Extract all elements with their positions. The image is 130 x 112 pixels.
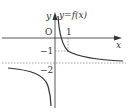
y-axis-label: y (45, 11, 52, 21)
y-tick-minus-2: −2 (40, 65, 53, 75)
x-tick-1: 1 (66, 27, 72, 37)
origin-label: O (45, 27, 52, 37)
x-axis-label: x (116, 40, 121, 50)
y-axis-arrow-icon (53, 12, 58, 20)
function-label: y=f(x) (58, 10, 88, 20)
function-graph: y y=f(x) O 1 x −1 −2 (0, 0, 130, 112)
y-tick-minus-1: −1 (40, 46, 53, 56)
